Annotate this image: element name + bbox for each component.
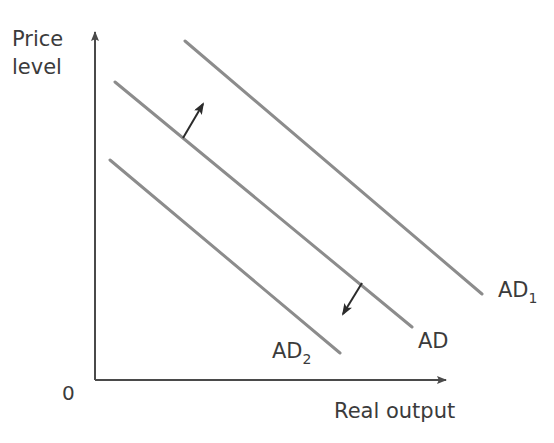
x-axis-label: Real output <box>334 399 455 423</box>
decrease-arrow-icon <box>343 283 362 314</box>
y-axis-label-line1: Price <box>12 27 63 51</box>
aggregate-demand-diagram: Price level Real output 0 AD2 AD AD1 <box>0 0 554 443</box>
ad2-curve <box>110 160 340 353</box>
increase-arrow-icon <box>183 104 203 138</box>
origin-label: 0 <box>62 381 75 405</box>
ad2-curve-label: AD2 <box>272 339 311 367</box>
ad1-curve-label: AD1 <box>498 278 537 306</box>
figure-canvas: Price level Real output 0 AD2 AD AD1 <box>0 0 554 443</box>
ad-curve-label: AD <box>418 329 449 353</box>
ad1-curve <box>185 41 482 294</box>
y-axis-label-line2: level <box>12 55 62 79</box>
